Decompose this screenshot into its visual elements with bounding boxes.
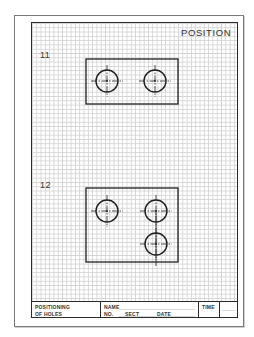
drawing-layer bbox=[0, 0, 254, 337]
hole-center-mark bbox=[106, 210, 108, 212]
time-label: TIME bbox=[202, 304, 215, 310]
hole-center-mark bbox=[106, 80, 108, 82]
title-block: POSITIONING OF HOLES NAME NO. SECT DATE … bbox=[31, 301, 238, 318]
name-rule bbox=[119, 309, 195, 310]
title-block-student: NAME NO. SECT DATE bbox=[100, 302, 199, 317]
part-outline bbox=[86, 59, 178, 104]
part-11 bbox=[86, 59, 178, 104]
part-12 bbox=[86, 188, 178, 266]
no-label: NO. bbox=[104, 311, 114, 317]
part-drawings bbox=[86, 59, 178, 266]
hole-center-mark bbox=[154, 80, 156, 82]
title-block-time: TIME bbox=[198, 302, 220, 317]
title-block-grade bbox=[219, 302, 237, 317]
date-rule bbox=[119, 316, 195, 317]
name-label: NAME bbox=[104, 304, 120, 310]
subject-line-2: OF HOLES bbox=[35, 311, 62, 317]
subject-line-1: POSITIONING bbox=[35, 304, 70, 310]
grade-rule bbox=[222, 310, 235, 311]
title-block-subject: POSITIONING OF HOLES bbox=[32, 302, 101, 317]
